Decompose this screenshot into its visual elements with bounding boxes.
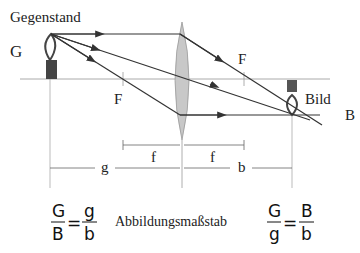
object-title: Gegenstand	[10, 9, 81, 25]
lens	[175, 22, 189, 188]
dimension-lines	[50, 140, 292, 168]
dim-f-right: f	[210, 149, 215, 165]
object-candle	[45, 34, 57, 188]
svg-text:g: g	[84, 201, 95, 221]
svg-text:B: B	[52, 224, 64, 244]
formula-caption: Abbildungsmaßstab	[115, 214, 227, 229]
svg-text:=: =	[283, 213, 297, 233]
svg-text:b: b	[301, 224, 312, 244]
object-symbol: G	[10, 42, 22, 61]
diagram-canvas: Gegenstand G F F Bild B f f g b G B = g …	[0, 0, 360, 253]
focal-point-right: F	[238, 51, 246, 67]
svg-text:B: B	[301, 201, 313, 221]
svg-text:g: g	[269, 224, 280, 244]
formula-right: G g = B b	[267, 201, 314, 244]
image-title: Bild	[305, 91, 331, 107]
dim-f-left: f	[151, 149, 156, 165]
svg-text:=: =	[67, 213, 81, 233]
dim-b: b	[238, 159, 246, 175]
image-symbol: B	[345, 107, 355, 123]
dim-g: g	[101, 159, 109, 175]
lens-diagram: Gegenstand G F F Bild B f f g b G B = g …	[0, 0, 360, 253]
svg-text:G: G	[52, 201, 65, 221]
svg-text:b: b	[84, 224, 95, 244]
formula-left: G B = g b	[51, 201, 97, 244]
focal-point-left: F	[114, 91, 122, 107]
image-candle	[287, 80, 297, 188]
svg-text:G: G	[268, 201, 281, 221]
